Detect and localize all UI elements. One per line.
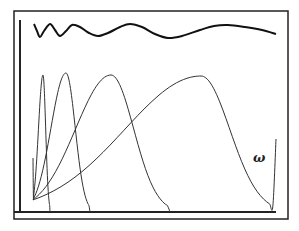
wavelet-figure bbox=[0, 0, 299, 231]
omega-axis-label: ω bbox=[253, 150, 265, 165]
top-signal-waveform bbox=[34, 24, 276, 38]
frequency-bands bbox=[33, 73, 276, 212]
outer-frame bbox=[14, 11, 288, 219]
